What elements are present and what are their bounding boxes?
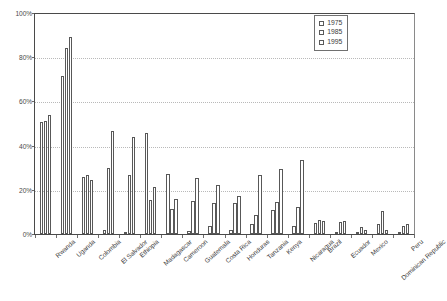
- legend-swatch-icon: [319, 30, 324, 35]
- y-tick-label: 60%: [2, 98, 32, 105]
- bar-group: [292, 13, 303, 234]
- bar[interactable]: [191, 201, 194, 234]
- bar-group: [398, 13, 409, 234]
- bar[interactable]: [343, 221, 346, 234]
- bar-group: [82, 13, 93, 234]
- bar-group: [377, 13, 388, 234]
- bar[interactable]: [254, 215, 257, 234]
- legend-item-1[interactable]: 1985: [319, 28, 342, 38]
- bar[interactable]: [356, 232, 359, 234]
- bar[interactable]: [275, 202, 278, 234]
- bar[interactable]: [128, 175, 131, 234]
- bar-group: [250, 13, 261, 234]
- bar-groups-layer: [35, 13, 414, 234]
- bar[interactable]: [145, 133, 148, 234]
- bar-group: [187, 13, 198, 234]
- bar[interactable]: [377, 224, 380, 234]
- legend[interactable]: 1975 1985 1995: [314, 15, 348, 51]
- bar[interactable]: [296, 207, 299, 234]
- bar[interactable]: [406, 224, 409, 234]
- bar[interactable]: [103, 230, 106, 234]
- y-tick-label: 100%: [2, 10, 32, 17]
- y-tick-label: 80%: [2, 54, 32, 61]
- bar[interactable]: [216, 185, 219, 234]
- bar-group: [145, 13, 156, 234]
- bar[interactable]: [258, 175, 261, 234]
- y-tick-label: 20%: [2, 186, 32, 193]
- bar[interactable]: [174, 199, 177, 234]
- bar[interactable]: [271, 210, 274, 234]
- bar[interactable]: [233, 203, 236, 234]
- bar[interactable]: [212, 203, 215, 234]
- bar-group: [271, 13, 282, 234]
- bar[interactable]: [61, 76, 64, 234]
- y-axis: 0%20%40%60%80%100%: [0, 13, 32, 235]
- bar[interactable]: [208, 226, 211, 234]
- bar[interactable]: [381, 211, 384, 234]
- bar[interactable]: [279, 169, 282, 234]
- bar-group: [208, 13, 219, 234]
- legend-label: 1995: [327, 39, 342, 46]
- bar[interactable]: [111, 131, 114, 234]
- legend-swatch-icon: [319, 40, 324, 45]
- bar[interactable]: [132, 137, 135, 234]
- bar[interactable]: [385, 230, 388, 234]
- x-axis-labels: RwandaUgandaColombiaEl SalvadorEthiopiaM…: [0, 236, 422, 301]
- bar[interactable]: [65, 48, 68, 234]
- bar-group: [166, 13, 177, 234]
- bar[interactable]: [90, 180, 93, 234]
- bar[interactable]: [153, 187, 156, 235]
- bar[interactable]: [149, 200, 152, 234]
- bar[interactable]: [82, 177, 85, 234]
- bar-group: [103, 13, 114, 234]
- bar[interactable]: [124, 232, 127, 234]
- bar-group: [61, 13, 72, 234]
- bar[interactable]: [398, 232, 401, 234]
- bar[interactable]: [195, 178, 198, 234]
- bar[interactable]: [402, 226, 405, 234]
- bar[interactable]: [237, 196, 240, 234]
- legend-label: 1985: [327, 29, 342, 36]
- bar[interactable]: [107, 168, 110, 234]
- y-tick-label: 40%: [2, 142, 32, 149]
- bar[interactable]: [187, 231, 190, 234]
- x-axis-label: Dominican Republic: [400, 238, 447, 281]
- bar[interactable]: [229, 230, 232, 234]
- x-axis-label: Mexico: [369, 238, 389, 257]
- x-axis-label: Peru: [409, 238, 424, 252]
- bar[interactable]: [339, 222, 342, 234]
- x-axis-label: Ecuador: [349, 238, 371, 259]
- bar[interactable]: [48, 115, 51, 234]
- x-axis-label: Colombia: [97, 238, 122, 261]
- bar-group: [124, 13, 135, 234]
- x-axis-label: Uganda: [75, 238, 96, 258]
- bar[interactable]: [69, 37, 72, 234]
- legend-item-2[interactable]: 1995: [319, 38, 342, 48]
- bar[interactable]: [335, 232, 338, 234]
- legend-item-0[interactable]: 1975: [319, 19, 342, 29]
- bar[interactable]: [300, 160, 303, 234]
- bar-group: [356, 13, 367, 234]
- bar[interactable]: [40, 122, 43, 234]
- legend-label: 1975: [327, 20, 342, 27]
- bar[interactable]: [166, 174, 169, 234]
- bar-group: [229, 13, 240, 234]
- bar-group: [40, 13, 51, 234]
- legend-swatch-icon: [319, 21, 324, 26]
- bar[interactable]: [44, 121, 47, 234]
- bar[interactable]: [364, 230, 367, 234]
- bar[interactable]: [170, 209, 173, 234]
- bar[interactable]: [314, 223, 317, 234]
- bar[interactable]: [318, 220, 321, 234]
- x-axis-label: Rwanda: [54, 238, 76, 259]
- bar[interactable]: [360, 227, 363, 234]
- bar[interactable]: [322, 221, 325, 234]
- bar[interactable]: [292, 226, 295, 234]
- bar[interactable]: [250, 224, 253, 234]
- bar[interactable]: [86, 175, 89, 234]
